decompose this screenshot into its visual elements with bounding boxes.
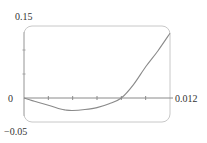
chart: 0.15 0 −0.05 0.012 (0, 0, 207, 143)
x-max-label: 0.012 (175, 93, 198, 104)
y-max-label: 0.15 (15, 11, 33, 22)
y-min-label: −0.05 (4, 126, 27, 137)
y-zero-label: 0 (8, 93, 13, 104)
